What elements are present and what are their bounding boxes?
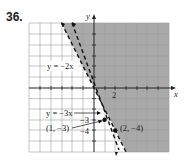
y-axis-arrow-icon bbox=[92, 14, 96, 19]
label-line-y-neg-3x: y = −3x bbox=[46, 108, 73, 118]
y-axis-label: y bbox=[85, 11, 90, 21]
x-axis-label: x bbox=[173, 89, 178, 99]
point-1-neg3 bbox=[102, 118, 106, 122]
label-point-2-neg4: (2, −4) bbox=[120, 123, 143, 133]
tick-label-y-neg3: −3 bbox=[80, 115, 89, 125]
label-point-1-neg3: (1, −3) bbox=[46, 123, 69, 133]
arrow-icon bbox=[115, 152, 118, 156]
inequality-graph: y = −2x y = −3x −3 −4 2 (1, −3) (2, −4) … bbox=[0, 0, 186, 162]
tick-label-x-2: 2 bbox=[112, 90, 116, 100]
label-line-y-neg-2x: y = −2x bbox=[47, 61, 74, 71]
point-2-neg4 bbox=[113, 128, 117, 132]
tick-label-y-neg4: −4 bbox=[80, 126, 90, 136]
